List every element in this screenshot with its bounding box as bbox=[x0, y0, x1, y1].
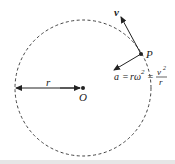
acceleration-formula: a = rω 2 = v 2 r bbox=[114, 65, 167, 87]
bottom-border bbox=[0, 160, 175, 164]
formula-eq2: = bbox=[147, 71, 154, 82]
formula-exp: 2 bbox=[141, 68, 145, 76]
acceleration-arrow bbox=[114, 54, 141, 70]
velocity-label: v bbox=[114, 6, 119, 18]
formula-eq1: = bbox=[122, 71, 129, 82]
center-label-o: O bbox=[79, 91, 87, 103]
circular-motion-diagram: v P r O a = rω 2 = v 2 r bbox=[0, 0, 175, 164]
formula-r-omega: rω bbox=[130, 71, 141, 82]
formula-num-v: v bbox=[157, 67, 161, 77]
formula-den-r: r bbox=[159, 77, 163, 87]
velocity-arrow bbox=[121, 17, 141, 54]
formula-num-exp: 2 bbox=[163, 65, 166, 71]
formula-a: a bbox=[114, 71, 119, 82]
center-point-o bbox=[81, 86, 85, 90]
point-label-p: P bbox=[145, 48, 153, 60]
radius-label: r bbox=[46, 76, 51, 88]
